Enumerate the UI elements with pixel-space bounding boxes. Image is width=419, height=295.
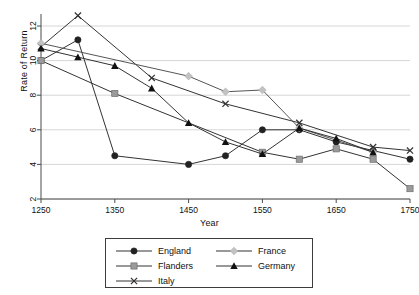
legend-label: Germany — [258, 259, 295, 273]
legend-label: France — [258, 244, 286, 258]
datapoint-italy-1400 — [149, 75, 155, 81]
legend-item-flanders[interactable]: Flanders — [114, 259, 193, 273]
datapoint-italy-1300 — [75, 13, 81, 19]
datapoint-england-1350 — [112, 153, 118, 159]
legend-marker-glyph — [230, 247, 238, 255]
series-england — [38, 37, 413, 168]
x-axis-title-wrapper: Year — [0, 212, 419, 230]
datapoint-france-1500 — [222, 88, 230, 96]
legend-item-germany[interactable]: Germany — [214, 259, 295, 273]
datapoint-flanders-1700 — [370, 156, 376, 162]
legend-marker-filled-circle-icon — [114, 244, 154, 258]
legend-item-england[interactable]: England — [114, 244, 191, 258]
datapoint-germany-1400 — [148, 85, 155, 92]
series-italy — [38, 13, 413, 154]
datapoint-france-1450 — [185, 72, 193, 80]
datapoint-england-1500 — [222, 153, 228, 159]
legend-marker-glyph — [131, 263, 137, 269]
datapoint-flanders-1250 — [38, 58, 44, 64]
datapoint-flanders-1750 — [407, 186, 413, 192]
datapoint-england-1300 — [75, 37, 81, 43]
legend-marker-filled-square-icon — [114, 259, 154, 273]
legend-label: England — [158, 244, 191, 258]
y-axis-title: Rate of Return — [19, 30, 29, 91]
legend-label: Italy — [158, 274, 175, 288]
datapoint-germany-1500 — [222, 138, 229, 145]
legend-item-france[interactable]: France — [214, 244, 286, 258]
series-germany — [37, 45, 377, 157]
series-line-italy — [41, 16, 410, 151]
datapoint-england-1750 — [407, 156, 413, 162]
datapoint-flanders-1600 — [296, 156, 302, 162]
series-line-flanders — [41, 61, 410, 189]
datapoint-germany-1250 — [37, 45, 44, 52]
chart-legend: EnglandFranceFlandersGermanyItaly — [105, 238, 313, 288]
datapoint-flanders-1650 — [333, 146, 339, 152]
y-tick-label-6: 6 — [28, 127, 38, 132]
datapoint-italy-1500 — [222, 101, 228, 107]
legend-grid: EnglandFranceFlandersGermanyItaly — [106, 239, 312, 287]
legend-marker-cross-icon — [114, 274, 154, 288]
legend-item-italy[interactable]: Italy — [114, 274, 175, 288]
y-axis-title-wrapper: Rate of Return — [13, 11, 31, 111]
legend-marker-filled-diamond-icon — [214, 244, 254, 258]
legend-label: Flanders — [158, 259, 193, 273]
datapoint-flanders-1350 — [112, 90, 118, 96]
rate-of-return-line-chart: 24681012125013501450155016501750 Rate of… — [0, 0, 419, 295]
legend-marker-filled-triangle-icon — [214, 259, 254, 273]
datapoint-england-1550 — [259, 127, 265, 133]
legend-marker-glyph — [131, 248, 137, 254]
series-flanders — [38, 58, 413, 192]
x-axis-title: Year — [200, 218, 219, 228]
y-tick-label-4: 4 — [28, 162, 38, 167]
datapoint-england-1450 — [186, 161, 192, 167]
y-tick-label-2: 2 — [28, 196, 38, 201]
